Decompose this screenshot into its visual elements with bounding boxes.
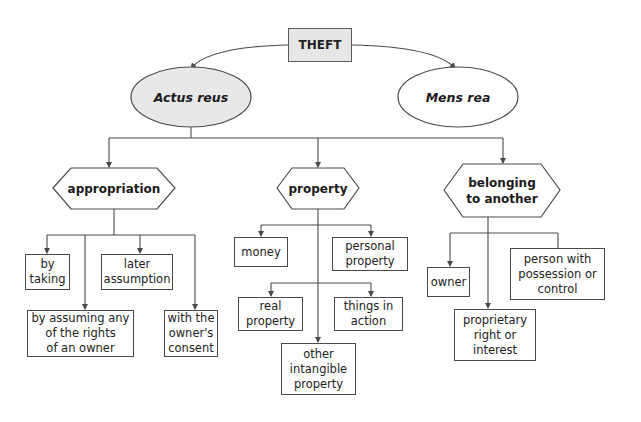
- proprietary-line3: interest: [473, 343, 517, 358]
- things-in-action-line1: things in: [344, 299, 394, 314]
- by-assuming-line3: of an owner: [46, 341, 114, 356]
- owners-consent-line1: with the: [168, 311, 215, 326]
- theft-label: THEFT: [299, 38, 342, 53]
- theft-root-box: THEFT: [288, 28, 352, 62]
- money-label: money: [241, 245, 280, 260]
- owners-consent-line3: consent: [168, 341, 214, 356]
- personal-property-box: personal property: [332, 237, 408, 271]
- real-property-box: real property: [238, 297, 303, 331]
- person-possession-line3: control: [538, 282, 578, 297]
- proprietary-right-interest-box: proprietary right or interest: [454, 309, 536, 361]
- property-node: property: [277, 168, 359, 209]
- other-intangible-line2: intangible: [290, 362, 347, 377]
- by-assuming-rights-box: by assuming any of the rights of an owne…: [27, 310, 134, 357]
- things-in-action-box: things in action: [334, 297, 403, 331]
- person-possession-line2: possession or: [518, 267, 596, 282]
- appropriation-label: appropriation: [68, 181, 161, 197]
- by-taking-box: by taking: [25, 254, 70, 290]
- actus-reus-node: Actus reus: [131, 67, 251, 127]
- by-assuming-line1: by assuming any: [32, 311, 130, 326]
- mens-rea-label: Mens rea: [426, 90, 491, 105]
- by-taking-line2: taking: [30, 272, 66, 287]
- owners-consent-box: with the owner's consent: [164, 310, 218, 357]
- owners-consent-line2: owner's: [169, 326, 214, 341]
- mens-rea-node: Mens rea: [398, 67, 518, 127]
- by-assuming-line2: of the rights: [45, 326, 115, 341]
- things-in-action-line2: action: [351, 314, 386, 329]
- personal-property-line2: property: [345, 254, 394, 269]
- other-intangible-line3: property: [294, 377, 343, 392]
- later-assumption-box: later assumption: [101, 254, 173, 290]
- other-intangible-line1: other: [303, 347, 334, 362]
- person-possession-control-box: person with possession or control: [510, 248, 605, 300]
- owner-box: owner: [427, 267, 470, 297]
- actus-reus-label: Actus reus: [154, 90, 228, 105]
- appropriation-node: appropriation: [53, 168, 175, 209]
- theft-diagram: THEFT Actus reus Mens rea appropriation …: [0, 0, 641, 422]
- real-property-line2: property: [246, 314, 295, 329]
- proprietary-line1: proprietary: [463, 313, 527, 328]
- later-assumption-line1: later: [124, 257, 151, 272]
- later-assumption-line2: assumption: [104, 272, 171, 287]
- person-possession-line1: person with: [524, 252, 591, 267]
- belonging-node: belonging to another: [444, 164, 560, 217]
- other-intangible-property-box: other intangible property: [281, 343, 356, 395]
- owner-label: owner: [431, 275, 467, 290]
- personal-property-line1: personal: [345, 239, 395, 254]
- money-box: money: [234, 237, 288, 267]
- property-label: property: [289, 181, 348, 197]
- proprietary-line2: right or: [474, 328, 516, 343]
- belonging-label-line1: belonging: [468, 175, 535, 191]
- real-property-line1: real: [260, 299, 282, 314]
- by-taking-line1: by: [40, 257, 54, 272]
- belonging-label-line2: to another: [466, 191, 537, 207]
